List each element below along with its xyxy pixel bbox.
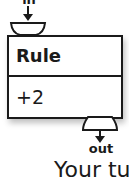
output-connector	[83, 117, 117, 130]
caption-text: Your tu	[54, 157, 129, 181]
output-port-label: out	[82, 141, 120, 156]
